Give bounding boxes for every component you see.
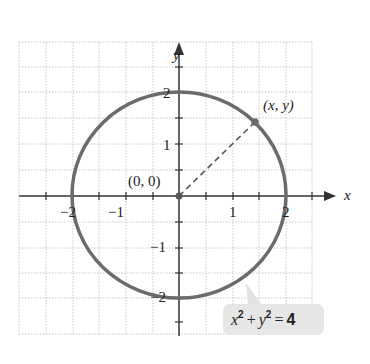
origin-point (176, 193, 183, 200)
point-label: (x, y) (263, 97, 294, 114)
axes (19, 42, 336, 336)
point-xy (251, 118, 259, 126)
radius-line (179, 122, 255, 196)
y-tick-neg2: −2 (150, 289, 166, 305)
x-tick-neg2: −2 (60, 204, 76, 220)
callout-pointer (246, 283, 262, 305)
y-axis-label: y (171, 47, 180, 63)
x-tick-neg1: −1 (108, 204, 124, 220)
circle-diagram: y x −2 −1 1 2 2 1 −1 −2 (0, 0) (x, y) x2… (0, 0, 370, 364)
origin-label: (0, 0) (128, 173, 161, 190)
x-tick-2: 2 (282, 204, 290, 220)
y-tick-neg1: −1 (150, 239, 166, 255)
y-tick-1: 1 (163, 137, 171, 153)
x-axis-label: x (343, 187, 351, 203)
x-tick-1: 1 (229, 204, 237, 220)
y-tick-2: 2 (163, 85, 171, 101)
